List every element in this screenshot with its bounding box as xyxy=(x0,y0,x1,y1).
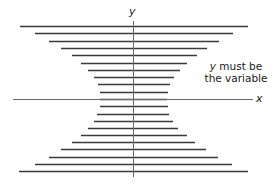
hourglass-region-diagram xyxy=(0,0,275,186)
annotation-line-1: y must be xyxy=(200,60,272,72)
annotation-line-1-text: must be xyxy=(216,60,262,72)
annotation-line-2: the variable xyxy=(200,72,272,84)
annotation-note: y must be the variable xyxy=(200,60,272,84)
y-axis-label: y xyxy=(129,5,136,18)
x-axis-label: x xyxy=(256,92,263,105)
